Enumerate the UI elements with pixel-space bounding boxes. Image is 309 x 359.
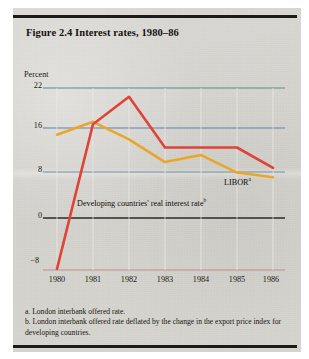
series-annotation-libor-text: LIBOR	[224, 178, 249, 187]
y-tick-label-22: 22	[20, 81, 42, 90]
y-axis-title: Percent	[24, 70, 49, 79]
series-annotation-libor-footnote-ref: a	[249, 176, 251, 182]
y-tick-label-minus-8: −8	[17, 256, 39, 265]
footnote-b: b. London interbank offered rate deflate…	[25, 317, 290, 338]
x-tick-label-1981: 1981	[78, 275, 108, 284]
footnote-a: a. London interbank offered rate.	[25, 307, 290, 317]
figure-root: Figure 2.4 Interest rates, 1980–86 Per	[0, 0, 309, 359]
x-tick-label-1984: 1984	[186, 275, 216, 284]
chart-plot-area: Percent 22 16 8 0 −8 1980 1981 1982 1983…	[0, 0, 309, 359]
x-tick-label-1983: 1983	[150, 275, 180, 284]
x-tick-label-1985: 1985	[222, 275, 252, 284]
x-tick-label-1980: 1980	[42, 275, 72, 284]
x-tick-label-1982: 1982	[114, 275, 144, 284]
y-tick-label-8: 8	[20, 165, 42, 174]
figure-footnotes: a. London interbank offered rate. b. Lon…	[25, 307, 290, 338]
chart-svg	[0, 0, 309, 359]
series-annotation-developing: Developing countries' real interest rate…	[77, 199, 206, 208]
y-tick-label-0: 0	[20, 211, 42, 220]
series-annotation-developing-text: Developing countries' real interest rate	[77, 199, 204, 208]
series-annotation-developing-footnote-ref: b	[204, 197, 207, 203]
series-annotation-libor: LIBORa	[224, 178, 251, 187]
x-tick-label-1986: 1986	[256, 275, 286, 284]
y-tick-label-16: 16	[20, 121, 42, 130]
